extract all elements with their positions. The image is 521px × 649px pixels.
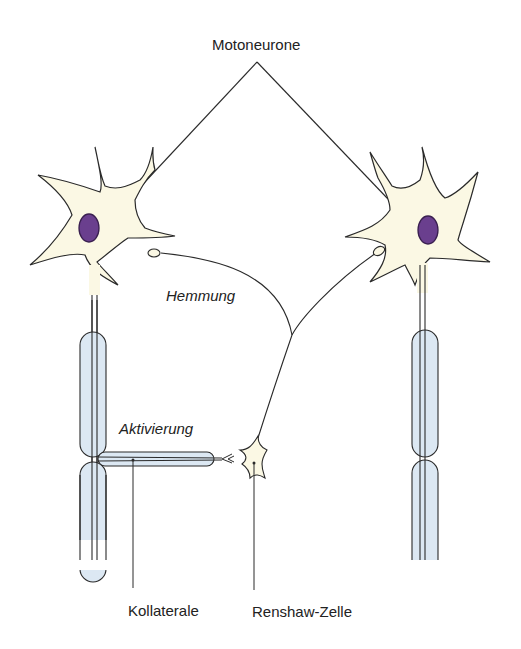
renshaw-circuit-diagram xyxy=(0,0,521,649)
renshaw-cell xyxy=(240,436,267,590)
label-motoneurons: Motoneurone xyxy=(212,36,300,53)
motoneuron-pointer-lines xyxy=(129,62,388,199)
left-synapse-bouton xyxy=(148,249,160,257)
collateral-branch xyxy=(98,452,234,588)
right-motoneuron xyxy=(345,147,490,293)
label-collateral: Kollaterale xyxy=(128,602,199,619)
right-synapse-bouton xyxy=(372,245,386,258)
right-nucleus xyxy=(418,216,438,244)
inhibition-axons xyxy=(148,245,386,438)
left-nucleus xyxy=(79,214,99,242)
label-activation: Aktivierung xyxy=(119,420,193,437)
right-myelin-sheaths xyxy=(411,265,439,590)
label-inhibition: Hemmung xyxy=(166,287,235,304)
label-renshaw-cell: Renshaw-Zelle xyxy=(252,603,352,620)
left-myelin-sheaths xyxy=(79,300,107,582)
